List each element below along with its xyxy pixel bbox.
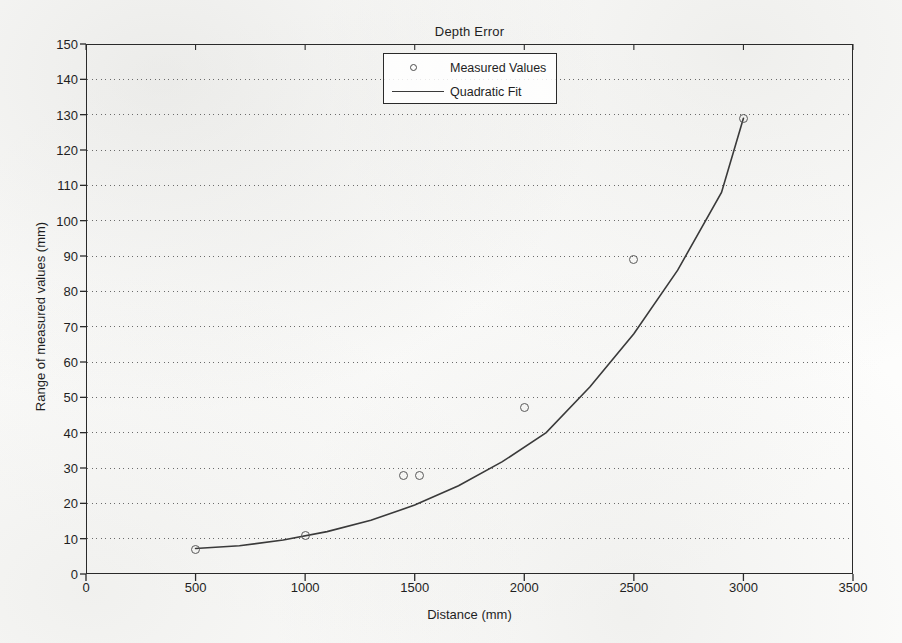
legend-circle-marker-icon (384, 55, 450, 80)
y-tick-label: 80 (38, 284, 78, 299)
x-tick-label: 0 (56, 580, 116, 595)
y-tick-label: 100 (38, 213, 78, 228)
legend-line-icon (384, 79, 450, 104)
y-tick-label: 130 (38, 107, 78, 122)
data-point-marker (739, 114, 748, 123)
x-tick-label: 2500 (604, 580, 664, 595)
y-tick-label: 40 (38, 425, 78, 440)
x-tick-label: 3000 (713, 580, 773, 595)
y-tick-label: 10 (38, 531, 78, 546)
x-tick-label: 500 (166, 580, 226, 595)
x-tick-label: 3500 (823, 580, 883, 595)
y-tick-label: 50 (38, 390, 78, 405)
x-tick-label: 2000 (494, 580, 554, 595)
y-tick-label: 120 (38, 143, 78, 158)
chart-legend: Measured Values Quadratic Fit (383, 53, 557, 104)
y-tick-label: 30 (38, 461, 78, 476)
x-tick-label: 1500 (385, 580, 445, 595)
x-tick-label: 1000 (275, 580, 335, 595)
data-point-marker (301, 531, 310, 540)
chart-figure: Depth Error Range of measured values (mm… (0, 0, 902, 643)
y-tick-label: 110 (38, 178, 78, 193)
y-tick-label: 20 (38, 496, 78, 511)
legend-label-measured-values: Measured Values (450, 61, 546, 75)
y-tick-label: 70 (38, 319, 78, 334)
legend-label-quadratic-fit: Quadratic Fit (450, 85, 522, 99)
data-point-marker (399, 471, 408, 480)
y-tick-label: 150 (38, 37, 78, 52)
legend-entry-measured-values: Measured Values (384, 55, 558, 80)
y-tick-label: 90 (38, 249, 78, 264)
legend-entry-quadratic-fit: Quadratic Fit (384, 79, 558, 104)
data-point-marker (191, 545, 200, 554)
data-point-marker (415, 471, 424, 480)
y-tick-label: 60 (38, 355, 78, 370)
y-tick-label: 140 (38, 72, 78, 87)
plot-frame (86, 44, 853, 574)
